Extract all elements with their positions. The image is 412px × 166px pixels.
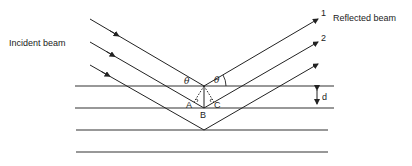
point-b-label: B [200, 110, 206, 120]
right-angle-c [210, 99, 212, 102]
perpendicular-c [204, 86, 214, 102]
point-c-label: C [214, 100, 221, 110]
incident-arrow-1 [110, 31, 117, 35]
point-a-label: A [186, 100, 192, 110]
reflected-ray-3 [204, 64, 318, 130]
ray-1-label: 1 [321, 8, 326, 18]
path-difference-construction [194, 86, 214, 108]
incident-arrow-2 [106, 51, 113, 55]
ray-2-label: 2 [321, 33, 326, 43]
theta-arc-right [223, 75, 226, 86]
right-angle-a [196, 99, 198, 102]
reflected-beam-label: Reflected beam [333, 13, 396, 23]
reflected-rays [204, 19, 318, 130]
spacing-d-label: d [322, 92, 327, 102]
reflected-ray-2 [204, 42, 318, 108]
incident-rays [90, 19, 204, 130]
theta-right-label: θ [214, 75, 220, 85]
incident-arrow-3 [101, 71, 108, 75]
perpendicular-a [194, 86, 204, 102]
reflected-ray-1 [204, 19, 318, 86]
theta-arcs [223, 75, 226, 86]
incident-beam-label: Incident beam [9, 38, 66, 48]
theta-left-label: θ [184, 76, 190, 86]
bragg-diagram: Incident beam Reflected beam 1 2 θ θ A B… [0, 0, 412, 166]
